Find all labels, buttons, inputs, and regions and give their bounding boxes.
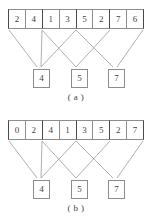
array-cell: 5 [92,120,110,140]
result-box: 5 [71,180,88,199]
array-cell: 2 [109,120,127,140]
array-cell: 2 [25,120,43,140]
array-cell: 3 [76,120,94,140]
connector-line [41,141,42,178]
result-row-a: 457 [0,69,152,88]
connector-line [41,30,76,67]
result-row-b: 457 [0,180,152,199]
result-box: 4 [33,180,50,199]
figure-caption-a: ( a ) [0,92,152,102]
array-cell: 6 [126,9,144,29]
connector-line [42,141,76,178]
merge-diagram-b: 02413527 457 ( b ) [0,111,152,222]
connector-line [42,30,76,67]
array-cell: 4 [25,9,43,29]
result-box: 7 [108,180,125,199]
array-cell: 1 [42,9,60,29]
array-cell: 7 [109,9,127,29]
connector-line [117,141,143,178]
merge-diagram-a: 24135276 457 ( a ) [0,0,152,111]
array-cell: 7 [126,120,144,140]
array-cell: 3 [59,9,77,29]
connector-line [41,141,76,178]
connector-line [76,30,113,67]
array-cell: 0 [8,120,26,140]
connector-line [76,141,110,178]
connector-line [9,30,37,67]
array-row-a: 24135276 [8,9,144,29]
result-box: 4 [33,69,50,88]
connector-line [76,141,113,178]
connector-line [41,30,42,67]
array-row-b: 02413527 [8,120,144,140]
array-cell: 2 [92,9,110,29]
array-cell: 1 [59,120,77,140]
result-box: 7 [108,69,125,88]
connector-line [9,141,37,178]
connector-line [117,30,143,67]
connector-line [76,30,110,67]
array-cell: 2 [8,9,26,29]
figure-caption-b: ( b ) [0,203,152,213]
result-box: 5 [71,69,88,88]
array-cell: 4 [42,120,60,140]
array-cell: 5 [76,9,94,29]
